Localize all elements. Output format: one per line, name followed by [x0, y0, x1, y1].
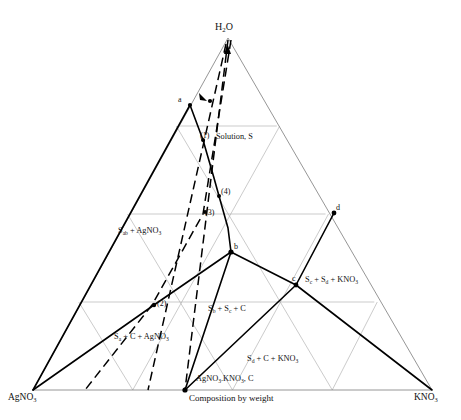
compound-label-c: AgNO3.KNO3, C — [196, 375, 254, 383]
figure-caption: Composition by weight — [189, 394, 274, 403]
data-point-markers — [152, 99, 337, 393]
vertex-label-kno3: KNO3 — [414, 393, 438, 403]
point-label-a: a — [178, 96, 182, 104]
region-label-sa-c-agno3: Sa + C + AgNO3 — [114, 333, 169, 341]
region-label-sc-sd-kno3: Sc + Sd + KNO3 — [305, 276, 358, 284]
region-label-solution-s: Solution, S — [216, 133, 253, 141]
phase-boundary-curves — [33, 105, 432, 390]
ternary-diagram-figure: H2O AgNO3 KNO3 a b c d (1) (2) (3) (4) S… — [0, 0, 461, 420]
vertex-label-h2o: H2O — [215, 22, 233, 32]
point-label-b: b — [234, 243, 238, 251]
point-label-d: d — [336, 204, 340, 212]
marker-label-3: (3) — [205, 209, 214, 217]
point-label-c: c — [292, 275, 296, 283]
region-label-sab-agno3: Sab + AgNO3 — [118, 227, 161, 235]
marker-label-4: (4) — [221, 188, 230, 196]
diagram-canvas — [0, 0, 461, 420]
marker-label-2: (2) — [157, 300, 166, 308]
region-label-sb-sc-c: Sb + Sc + C — [208, 305, 246, 313]
marker-label-1: (1) — [200, 132, 209, 140]
vertex-label-agno3: AgNO3 — [8, 393, 37, 403]
region-label-sd-c-kno3: Sd + C + KNO3 — [247, 355, 298, 363]
